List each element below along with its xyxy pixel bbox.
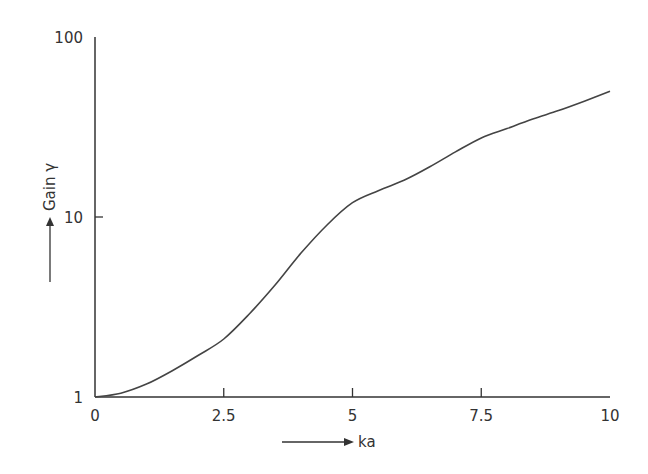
x-axis-label: ka — [358, 433, 376, 451]
x-tick-label: 7.5 — [469, 407, 493, 425]
up-arrow-icon — [46, 217, 54, 226]
x-ticks: 02.557.510 — [90, 388, 619, 425]
gain-curve — [95, 91, 610, 397]
y-tick-label: 1 — [73, 389, 83, 407]
gain-vs-ka-chart: 02.557.510 110100 Gain γ ka — [0, 0, 648, 474]
x-tick-label: 5 — [348, 407, 358, 425]
x-tick-label: 10 — [600, 407, 619, 425]
x-tick-label: 0 — [90, 407, 100, 425]
y-tick-label: 100 — [54, 29, 83, 47]
y-axis-label: Gain γ — [41, 163, 59, 211]
x-axis-title: ka — [282, 433, 376, 451]
y-tick-label: 10 — [64, 209, 83, 227]
y-axis-title: Gain γ — [41, 163, 59, 282]
axes — [95, 37, 610, 397]
x-tick-label: 2.5 — [212, 407, 236, 425]
right-arrow-icon — [344, 438, 354, 446]
